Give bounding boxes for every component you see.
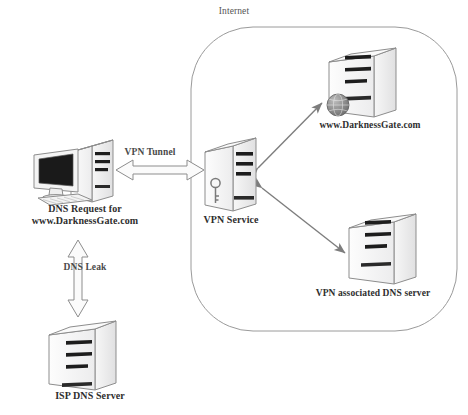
vpn-to-web-arrow	[258, 103, 322, 168]
darknessgate-web-server-label: www.DarknessGate.com	[280, 120, 460, 131]
client-pc-label-line1: DNS Request for	[0, 203, 170, 215]
vpn-tunnel-arrow	[116, 160, 204, 180]
vpn-tunnel-label: VPN Tunnel	[100, 147, 200, 158]
isp-dns-server-icon	[49, 321, 116, 390]
internet-region-label: Internet	[0, 6, 468, 17]
vpn-service-icon	[205, 138, 256, 211]
vpn-associated-dns-server-icon	[349, 214, 416, 284]
globe-icon	[327, 94, 349, 116]
isp-dns-server-label: ISP DNS Server	[10, 390, 170, 402]
vpn-associated-dns-server-label: VPN associated DNS server	[278, 288, 468, 299]
client-pc-label-line2: www.DarknessGate.com	[0, 215, 170, 227]
vpn-service-label: VPN Service	[176, 214, 286, 226]
client-pc-label: DNS Request for www.DarknessGate.com	[0, 203, 170, 226]
darknessgate-web-server-icon	[327, 48, 396, 117]
dns-leak-arrow	[68, 240, 88, 317]
diagram-canvas: Internet VPN Tunnel DNS Request for www.…	[0, 0, 468, 415]
dns-leak-label: DNS Leak	[30, 262, 140, 273]
